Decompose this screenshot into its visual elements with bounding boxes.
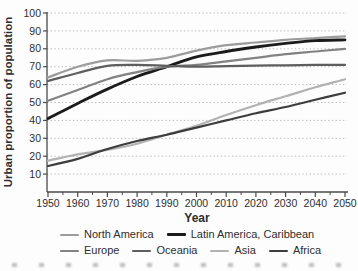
x-tick-label: 1990 <box>155 197 179 209</box>
axes-layer: 1020304050607080901001950196019701980199… <box>23 7 356 209</box>
y-tick-label: 50 <box>29 96 41 108</box>
legend-swatch-oceania <box>132 250 151 252</box>
legend-swatch-africa <box>269 250 288 252</box>
x-tick-label: 2010 <box>215 197 239 209</box>
x-tick-label: 1960 <box>66 197 90 209</box>
legend-label-europe: Europe <box>84 244 119 257</box>
y-tick-label: 10 <box>29 168 41 180</box>
x-tick-label: 1980 <box>125 197 149 209</box>
x-axis-title: Year <box>184 211 210 225</box>
x-tick-label: 2000 <box>185 197 209 209</box>
legend-label-north-america: North America <box>84 228 154 241</box>
legend-item-latin-america-caribbean: Latin America, Caribbean <box>167 228 315 241</box>
y-axis-title: Urban proportion of population <box>2 17 14 188</box>
x-tick-label: 1970 <box>96 197 120 209</box>
legend-item-north-america: North America <box>60 228 154 241</box>
legend-swatch-asia <box>210 250 229 252</box>
chart-plot-area: 1020304050607080901001950196019701980199… <box>0 0 358 226</box>
chart-legend: North AmericaLatin America, CaribbeanEur… <box>60 228 356 257</box>
legend-swatch-north-america <box>60 234 79 236</box>
x-tick-label: 1950 <box>36 197 60 209</box>
y-tick-label: 30 <box>29 132 41 144</box>
legend-row: North AmericaLatin America, Caribbean <box>60 228 356 241</box>
y-tick-label: 70 <box>29 60 41 72</box>
legend-label-oceania: Oceania <box>156 244 197 257</box>
legend-swatch-europe <box>60 250 79 252</box>
y-tick-label: 40 <box>29 114 41 126</box>
urbanisation-line-chart-figure: 1020304050607080901001950196019701980199… <box>0 0 358 271</box>
y-tick-label: 90 <box>29 25 41 37</box>
gridlines-layer <box>47 13 347 174</box>
legend-label-africa: Africa <box>293 244 321 257</box>
y-tick-label: 80 <box>29 42 41 54</box>
y-tick-label: 60 <box>29 78 41 90</box>
legend-label-latin-america-caribbean: Latin America, Caribbean <box>191 228 315 241</box>
legend-item-europe: Europe <box>60 244 119 257</box>
x-tick-label: 2040 <box>304 197 328 209</box>
legend-item-oceania: Oceania <box>132 244 197 257</box>
legend-row: EuropeOceaniaAsiaAfrica <box>60 244 356 257</box>
series-line-oceania <box>48 65 345 81</box>
y-tick-label: 20 <box>29 150 41 162</box>
series-layer <box>48 36 345 166</box>
y-tick-label: 100 <box>23 7 41 19</box>
x-tick-label: 2020 <box>244 197 268 209</box>
cropped-text-artifact <box>12 263 346 267</box>
legend-swatch-latin-america-caribbean <box>167 233 186 236</box>
x-tick-label: 2030 <box>274 197 298 209</box>
series-line-africa <box>48 93 345 166</box>
legend-label-asia: Asia <box>234 244 255 257</box>
legend-item-asia: Asia <box>210 244 255 257</box>
legend-item-africa: Africa <box>269 244 321 257</box>
x-tick-label: 2050 <box>333 197 357 209</box>
